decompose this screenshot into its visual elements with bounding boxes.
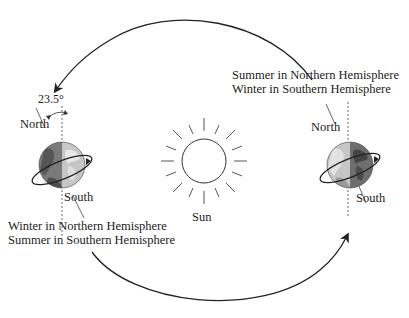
sun-icon (161, 118, 247, 204)
tilt-angle-label: 23.5° (38, 92, 64, 106)
diagram-canvas (0, 0, 409, 318)
right-south-label: South (356, 191, 385, 205)
left-caption-line1: Winter in Northern Hemisphere (8, 219, 167, 233)
sun-label: Sun (192, 210, 211, 224)
right-north-label: North (311, 120, 340, 134)
left-caption-line2: Summer in Southern Hemisphere (8, 233, 175, 247)
right-caption-line1: Summer in Northern Hemisphere (232, 68, 399, 82)
seasons-diagram: 23.5° North South Winter in Northern Hem… (0, 0, 409, 318)
left-north-label: North (20, 117, 49, 131)
left-south-label: South (64, 190, 93, 204)
right-caption-line2: Winter in Southern Hemisphere (232, 82, 391, 96)
